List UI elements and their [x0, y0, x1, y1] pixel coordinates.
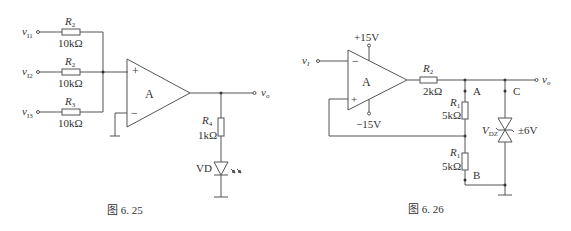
- svg-text:10kΩ: 10kΩ: [58, 37, 83, 49]
- svg-text:VD: VD: [196, 162, 212, 174]
- svg-text:R2: R2: [422, 62, 434, 76]
- svg-text:10kΩ: 10kΩ: [58, 117, 83, 129]
- svg-text:VDZ: VDZ: [482, 124, 498, 138]
- figure-6-26: vI − + A +15V −15V R2 2kΩ vo A R1: [302, 31, 551, 215]
- opamp-a: − + A: [348, 50, 407, 110]
- svg-text:R4: R4: [201, 114, 213, 128]
- resistor-r4: [218, 118, 224, 136]
- input-label-vi1: vI1: [22, 25, 33, 40]
- svg-text:10kΩ: 10kΩ: [58, 77, 83, 89]
- resistor-r3: [62, 109, 80, 115]
- output-label-vo: vo: [542, 73, 551, 87]
- svg-text:R2: R2: [64, 55, 76, 69]
- resistor-r2-top: [62, 29, 80, 35]
- terminal-icon: [37, 71, 40, 74]
- caption-6-25: 图 6. 25: [107, 204, 143, 216]
- resistor-r1-bottom: [462, 153, 468, 170]
- svg-text:A: A: [362, 75, 371, 89]
- svg-text:2kΩ: 2kΩ: [423, 85, 442, 97]
- svg-text:vI3: vI3: [22, 105, 33, 120]
- node-b-dot: [464, 179, 467, 182]
- terminal-icon: [253, 92, 256, 95]
- resistor-r2-mid: [62, 69, 80, 75]
- svg-text:+: +: [132, 64, 139, 78]
- svg-text:R2: R2: [64, 15, 76, 29]
- svg-text:A: A: [145, 87, 154, 101]
- terminal-icon: [368, 44, 371, 47]
- resistor-r1-top: [462, 102, 468, 119]
- node-c-label: C: [513, 85, 520, 97]
- input-label-vi: vI: [302, 54, 310, 68]
- figure-6-25: vI1 R2 10kΩ vI2 R2 10kΩ vI3 R3 10kΩ: [22, 15, 270, 216]
- svg-text:R3: R3: [64, 95, 76, 109]
- input-vi2: vI2 R2 10kΩ: [22, 55, 128, 89]
- node-b-label: B: [473, 169, 480, 181]
- terminal-icon: [37, 31, 40, 34]
- svg-text:5kΩ: 5kΩ: [442, 160, 461, 172]
- junction-dot: [504, 184, 507, 187]
- terminal-icon: [535, 79, 538, 82]
- node-a-label: A: [473, 85, 481, 97]
- svg-text:1kΩ: 1kΩ: [198, 129, 217, 141]
- supply-negative: −15V: [356, 118, 381, 130]
- svg-text:R1: R1: [449, 146, 461, 160]
- terminal-icon: [317, 60, 320, 63]
- supply-positive: +15V: [354, 31, 379, 43]
- circuit-diagrams: vI1 R2 10kΩ vI2 R2 10kΩ vI3 R3 10kΩ: [0, 0, 571, 231]
- input-vi1: vI1 R2 10kΩ: [22, 15, 103, 49]
- svg-text:+: +: [351, 93, 357, 105]
- svg-text:5kΩ: 5kΩ: [442, 109, 461, 121]
- zener-diode-icon: [496, 118, 514, 142]
- node-a-dot: [464, 90, 467, 93]
- svg-text:R1: R1: [449, 96, 461, 110]
- resistor-r2: [420, 77, 437, 83]
- terminal-icon: [37, 111, 40, 114]
- node-c-dot: [504, 90, 507, 93]
- opamp-a: + − A: [127, 59, 190, 127]
- junction-dot: [102, 71, 105, 74]
- led-icon: [214, 162, 241, 175]
- input-vi3: vI3 R3 10kΩ: [22, 95, 103, 129]
- svg-text:−: −: [131, 106, 138, 120]
- caption-6-26: 图 6. 26: [408, 203, 444, 215]
- svg-text:±6V: ±6V: [518, 124, 538, 136]
- output-label-vo: vo: [261, 86, 270, 100]
- terminal-icon: [368, 112, 371, 115]
- svg-text:−: −: [352, 54, 359, 68]
- svg-text:vI2: vI2: [22, 65, 33, 80]
